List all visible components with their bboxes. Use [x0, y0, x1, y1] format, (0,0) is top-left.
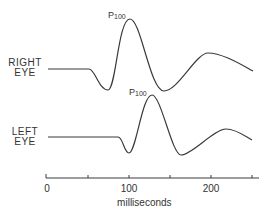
x-ticks [46, 174, 252, 178]
x-axis-label: milliseconds [117, 197, 171, 208]
x-tick-label-0: 0 [44, 183, 50, 194]
left-p100-annotation: P100 [129, 88, 147, 98]
left-eye-label: LEFT EYE [3, 127, 47, 147]
right-p100-annotation: P100 [108, 11, 126, 21]
x-tick-label-100: 100 [121, 183, 138, 194]
right-eye-label: RIGHT EYE [3, 58, 47, 78]
x-tick-label-200: 200 [203, 183, 220, 194]
left-eye-label-line2: EYE [3, 137, 47, 147]
right-eye-trace [48, 19, 253, 91]
right-eye-label-line2: EYE [3, 68, 47, 78]
left-eye-trace [48, 95, 252, 155]
